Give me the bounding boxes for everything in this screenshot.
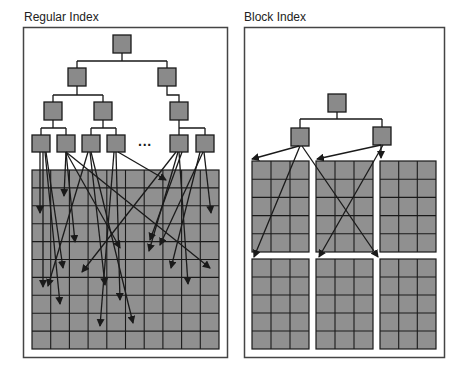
block-index-panel xyxy=(245,28,445,358)
leaf-node xyxy=(196,135,214,152)
block xyxy=(252,161,309,252)
level2-node xyxy=(44,102,62,120)
level2-node xyxy=(94,102,112,120)
root-node xyxy=(113,35,131,53)
block xyxy=(252,259,309,349)
level1-node xyxy=(158,68,176,86)
level1-node xyxy=(68,68,86,86)
data-grid xyxy=(32,170,219,349)
index-diagram: ··· xyxy=(0,0,465,366)
regular-index-panel: ··· xyxy=(24,28,228,358)
leaf-node xyxy=(32,135,50,152)
ellipsis-label: ··· xyxy=(138,137,152,153)
block xyxy=(380,259,436,349)
level2-node xyxy=(170,102,188,120)
leaf-node xyxy=(82,135,100,152)
leaf-node xyxy=(107,135,125,152)
root-node xyxy=(328,94,346,112)
leaf-node xyxy=(57,135,75,152)
level1-node xyxy=(291,128,309,146)
level1-node xyxy=(373,127,391,145)
block xyxy=(316,259,373,349)
leaf-node xyxy=(170,135,188,152)
block xyxy=(380,161,436,252)
